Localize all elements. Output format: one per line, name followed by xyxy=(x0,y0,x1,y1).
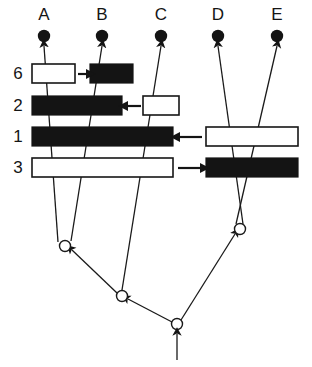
node-de[interactable] xyxy=(235,224,246,235)
character-row-label-1: 1 xyxy=(13,127,22,146)
taxon-label-B: B xyxy=(96,5,107,24)
character-bar-2-black[interactable] xyxy=(32,96,122,115)
row-labels-layer: 6213 xyxy=(13,64,22,177)
annotation-arrows-layer xyxy=(78,74,202,168)
character-bar-3-white[interactable] xyxy=(32,158,173,177)
node-abc[interactable] xyxy=(117,291,128,302)
branch-node-de xyxy=(181,234,235,320)
node-root[interactable] xyxy=(172,319,183,330)
character-bar-1-white[interactable] xyxy=(206,127,298,146)
character-row-label-6: 6 xyxy=(13,64,22,83)
tip-dot-A[interactable] xyxy=(38,30,50,42)
taxon-label-C: C xyxy=(155,5,167,24)
character-bar-6-black[interactable] xyxy=(90,64,133,83)
phylogeny-figure: 6213 ABCDE xyxy=(0,0,312,367)
tips-layer: ABCDE xyxy=(38,5,283,42)
character-bars-layer xyxy=(32,64,298,177)
character-bar-6-white[interactable] xyxy=(32,64,75,83)
branch-node-ab xyxy=(72,250,117,293)
character-bar-1-black[interactable] xyxy=(32,127,173,146)
internal-nodes-layer xyxy=(60,224,246,330)
tip-dot-B[interactable] xyxy=(96,30,108,42)
taxon-label-E: E xyxy=(271,5,282,24)
tip-dot-E[interactable] xyxy=(271,30,283,42)
character-bar-3-black[interactable] xyxy=(206,158,298,177)
character-bar-2-white[interactable] xyxy=(143,96,179,115)
character-row-label-2: 2 xyxy=(13,96,22,115)
figure-canvas: 6213 ABCDE xyxy=(0,0,312,367)
branches-layer xyxy=(44,46,277,322)
branch-node-abc xyxy=(128,299,172,322)
node-ab[interactable] xyxy=(60,241,71,252)
taxon-label-A: A xyxy=(38,5,50,24)
tip-dot-D[interactable] xyxy=(212,30,224,42)
tip-dot-C[interactable] xyxy=(155,30,167,42)
character-row-label-3: 3 xyxy=(13,158,22,177)
taxon-label-D: D xyxy=(212,5,224,24)
